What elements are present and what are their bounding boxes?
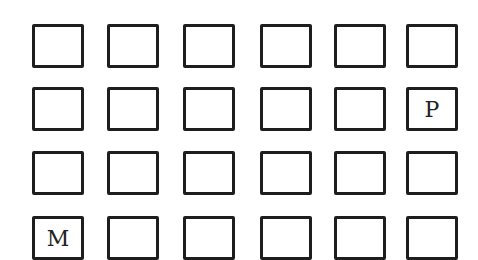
grid-cell-r3-c5: [334, 151, 386, 195]
grid-cell-r1-c1: [32, 24, 84, 68]
grid-cell-r3-c6: [406, 151, 458, 195]
grid-cell-r1-c4: [260, 24, 312, 68]
grid-cell-r1-c2: [107, 24, 159, 68]
grid-cell-r2-c3: [183, 87, 235, 131]
grid-cell-r4-c4: [260, 216, 312, 260]
grid-cell-r4-c6: [406, 216, 458, 260]
grid-cell-r1-c3: [183, 24, 235, 68]
grid-cell-r4-c2: [107, 216, 159, 260]
grid-cell-r2-c1: [32, 87, 84, 131]
grid-cell-r2-c4: [260, 87, 312, 131]
grid-cell-r3-c1: [32, 151, 84, 195]
grid-cell-r2-c6: P: [406, 87, 458, 131]
grid-cell-r2-c5: [334, 87, 386, 131]
grid-cell-r4-c1: M: [32, 216, 84, 260]
grid-cell-r3-c3: [183, 151, 235, 195]
grid-cell-r1-c6: [406, 24, 458, 68]
grid-cell-r4-c3: [183, 216, 235, 260]
letter-box-grid: PM: [0, 0, 478, 260]
grid-cell-r3-c2: [107, 151, 159, 195]
grid-cell-r3-c4: [260, 151, 312, 195]
grid-cell-r2-c2: [107, 87, 159, 131]
cell-letter: M: [47, 228, 70, 250]
cell-letter: P: [425, 99, 440, 121]
grid-cell-r1-c5: [334, 24, 386, 68]
grid-cell-r4-c5: [334, 216, 386, 260]
